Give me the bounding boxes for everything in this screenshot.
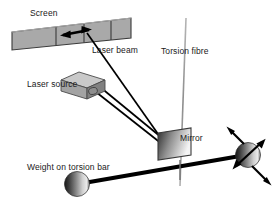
torsion-balance-diagram xyxy=(0,0,278,212)
torsion-fibre xyxy=(180,18,186,186)
weight-left-sphere xyxy=(65,172,90,197)
diagram-canvas: Screen Laser beam Laser source Torsion f… xyxy=(0,0,278,212)
label-laser-beam: Laser beam xyxy=(92,46,138,55)
label-mirror: Mirror xyxy=(180,134,203,143)
label-weight-on-torsion-bar: Weight on torsion bar xyxy=(27,163,110,172)
label-laser-source: Laser source xyxy=(27,80,77,89)
label-screen: Screen xyxy=(30,9,58,18)
label-torsion-fibre: Torsion fibre xyxy=(161,47,209,56)
